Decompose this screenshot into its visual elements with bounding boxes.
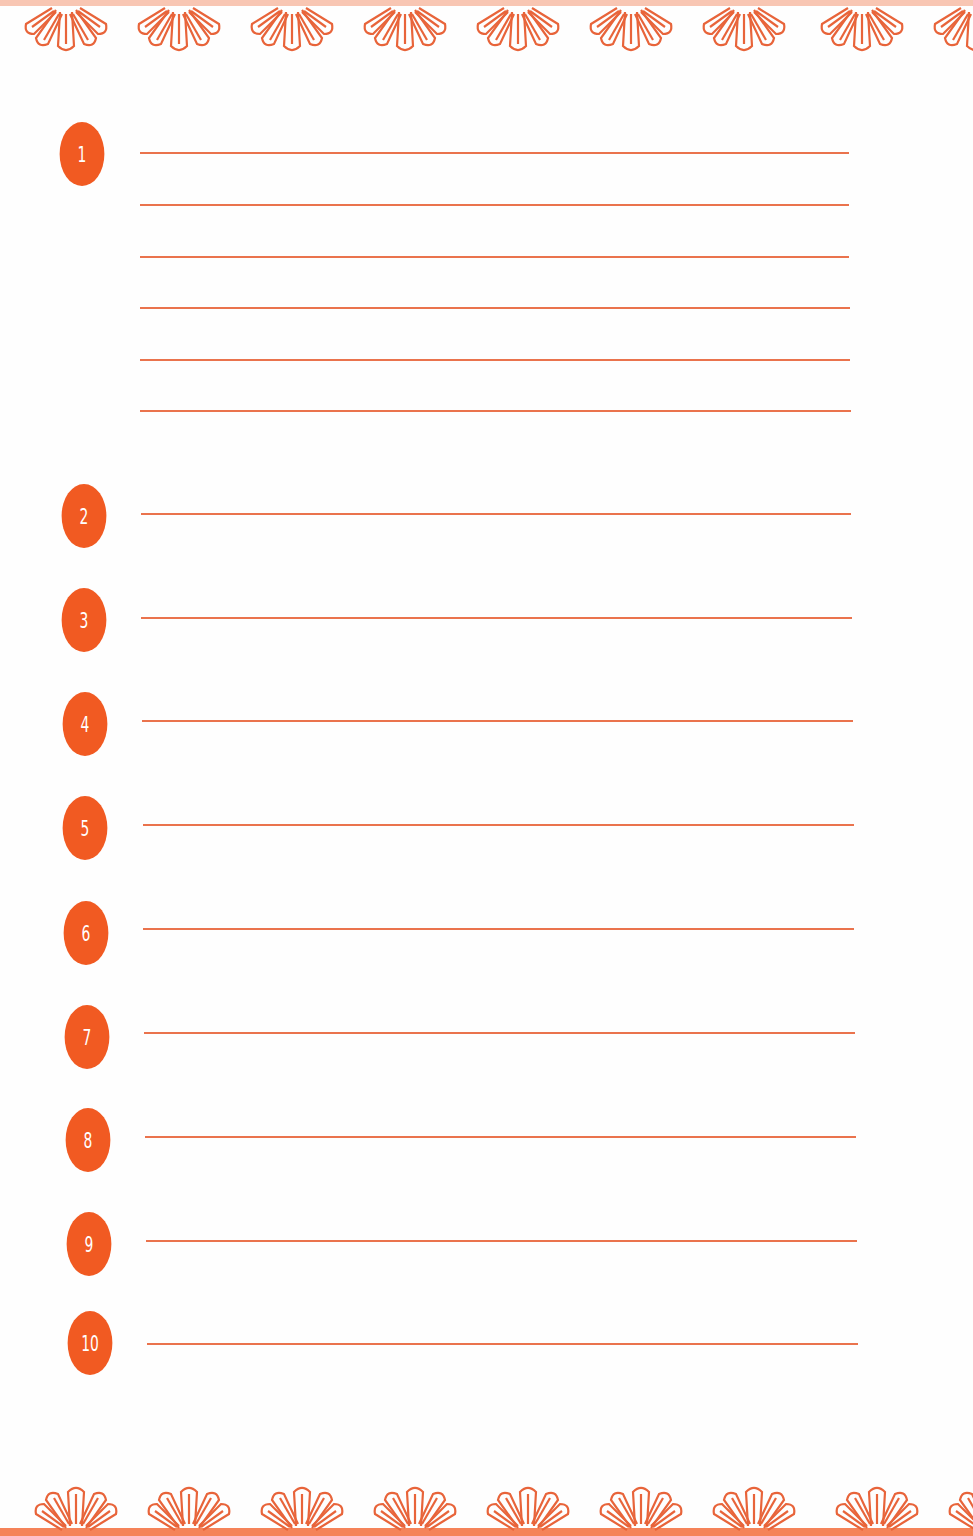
writing-line[interactable]: [144, 1032, 855, 1034]
writing-line[interactable]: [140, 410, 851, 412]
writing-line[interactable]: [147, 1343, 858, 1345]
writing-line[interactable]: [145, 1136, 856, 1138]
writing-line[interactable]: [141, 513, 851, 515]
number-badge: 1: [60, 122, 105, 186]
writing-line[interactable]: [140, 359, 850, 361]
number-badge: 4: [63, 692, 108, 756]
writing-line[interactable]: [140, 256, 849, 258]
number-badge: 9: [67, 1212, 112, 1276]
bottom-flower-border: [0, 1470, 973, 1536]
number-badge: 10: [68, 1311, 113, 1375]
number-badge: 8: [66, 1108, 111, 1172]
number-badge: 6: [64, 901, 109, 965]
writing-line[interactable]: [142, 720, 853, 722]
number-badge: 5: [63, 796, 108, 860]
writing-line[interactable]: [143, 824, 854, 826]
top-flower-border: [0, 0, 973, 60]
writing-line[interactable]: [146, 1240, 857, 1242]
writing-line[interactable]: [140, 307, 850, 309]
writing-line[interactable]: [143, 928, 854, 930]
writing-line[interactable]: [140, 152, 849, 154]
number-badge: 3: [62, 588, 107, 652]
writing-line[interactable]: [140, 204, 849, 206]
number-badge: 2: [62, 484, 107, 548]
number-badge: 7: [65, 1005, 110, 1069]
writing-line[interactable]: [141, 617, 852, 619]
